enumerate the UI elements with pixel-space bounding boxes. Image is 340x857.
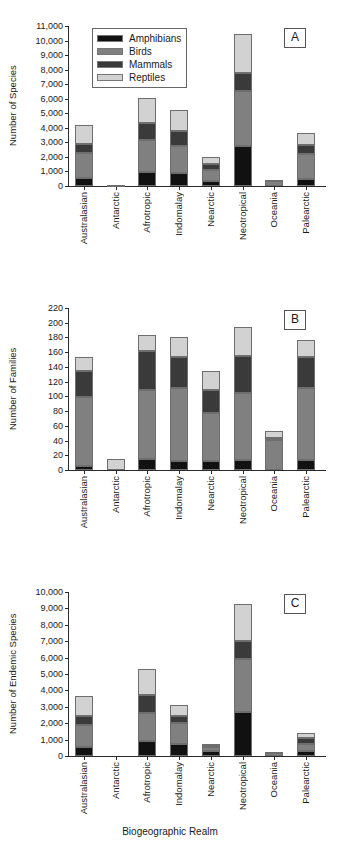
x-tick-label-afrotropic: Afrotropic [141,192,152,233]
bar-segment-mammals [297,357,315,389]
y-tick-label: 1,000 [40,167,63,176]
x-tick-label-indomalay: Indomalay [173,762,184,806]
x-tick-mark [116,471,117,474]
bar-segment-reptiles [265,431,283,438]
x-tick-label-australasian: Australasian [78,762,89,814]
bar-segment-amphibians [297,460,315,470]
chart-panel-c: Number of Endemic Species01,0002,0003,00… [0,576,340,857]
legend-label-reptiles: Reptiles [129,73,165,83]
bar-segment-reptiles [234,327,252,356]
bar-segment-birds [138,713,156,741]
bar-segment-reptiles [265,180,283,182]
chart-panel-b: Number of Families0204060801001201401601… [0,288,340,576]
x-tick-label-australasian: Australasian [78,476,89,528]
bar-segment-mammals [170,357,188,389]
bar-segment-amphibians [234,712,252,756]
bar-palearctic [297,308,315,470]
bar-antarctic [107,592,125,756]
bar-segment-amphibians [138,459,156,470]
x-tick-mark [243,757,244,760]
bar-nearctic [202,308,220,470]
y-tick-label: 20 [53,451,63,460]
bar-segment-birds [265,440,283,470]
bar-indomalay [170,308,188,470]
bar-segment-reptiles [234,604,252,641]
plot-area-a: Number of Species01,0002,0003,0004,0005,… [0,0,340,288]
bar-segment-reptiles [75,125,93,144]
bar-segment-mammals [202,164,220,171]
figure-biogeographic-realm-diversity: Number of Species01,0002,0003,0004,0005,… [0,0,340,857]
x-tick-mark [211,757,212,760]
x-tick-label-neotropical: Neotropical [237,476,248,524]
bar-segment-mammals [265,438,283,440]
y-tick-label: 3,000 [40,702,63,711]
bar-segment-reptiles [170,705,188,717]
bar-segment-amphibians [138,172,156,186]
panel-label-a: A [284,28,306,48]
y-axis-line [68,308,69,471]
x-tick-mark [147,471,148,474]
bar-segment-mammals [234,641,252,659]
x-tick-mark [211,187,212,190]
bar-segment-reptiles [297,733,315,738]
x-tick-label-antarctic: Antarctic [110,762,121,799]
bar-segment-birds [234,659,252,712]
y-axis-line [68,592,69,757]
bar-segment-reptiles [138,98,156,123]
x-tick-mark [147,187,148,190]
x-tick-label-neotropical: Neotropical [237,192,248,240]
bar-segment-reptiles [107,459,125,470]
bar-indomalay [170,592,188,756]
y-tick-label: 1,000 [40,735,63,744]
bar-neotropical [234,592,252,756]
legend-swatch-mammals [97,61,123,68]
bar-segment-reptiles [170,337,188,357]
y-tick-label: 60 [53,421,63,430]
bar-neotropical [234,26,252,186]
x-tick-label-palearctic: Palearctic [300,476,311,518]
y-axis-line [68,26,69,187]
x-tick-label-oceania: Oceania [268,762,279,797]
x-tick-mark [179,757,180,760]
bar-oceania [265,26,283,186]
x-tick-label-oceania: Oceania [268,476,279,511]
y-tick-label: 0 [58,466,63,475]
bar-segment-amphibians [202,751,220,756]
y-tick-label: 0 [58,752,63,761]
bar-segment-mammals [75,716,93,725]
y-tick-label: 3,000 [40,138,63,147]
x-tick-mark [179,187,180,190]
x-tick-mark [179,471,180,474]
bar-segment-amphibians [170,744,188,756]
bar-segment-mammals [202,390,220,412]
legend-item-birds: Birds [97,45,181,58]
bar-segment-birds [297,388,315,459]
y-tick-label: 5,000 [40,670,63,679]
bar-segment-birds [297,744,315,751]
bar-neotropical [234,308,252,470]
x-tick-label-palearctic: Palearctic [300,192,311,234]
bar-segment-amphibians [170,173,188,186]
bar-afrotropic [138,592,156,756]
x-tick-mark [211,471,212,474]
bar-segment-mammals [297,145,315,154]
y-tick-label: 8,000 [40,65,63,74]
y-tick-label: 80 [53,407,63,416]
bar-segment-birds [202,747,220,751]
x-tick-mark [243,187,244,190]
bar-segment-birds [234,393,252,461]
y-tick-label: 2,000 [40,152,63,161]
y-tick-label: 220 [48,304,63,313]
bar-afrotropic [138,308,156,470]
plot-area-c: Number of Endemic Species01,0002,0003,00… [0,576,340,857]
y-axis-ticks-a: 01,0002,0003,0004,0005,0006,0007,0008,00… [0,0,63,288]
bar-antarctic [107,308,125,470]
x-tick-mark [274,187,275,190]
x-tick-mark [84,757,85,760]
bar-segment-reptiles [75,696,93,716]
bar-australasian [75,308,93,470]
x-tick-label-indomalay: Indomalay [173,476,184,520]
y-axis-ticks-b: 020406080100120140160180200220 [0,288,63,576]
panel-label-b: B [284,310,306,330]
y-tick-label: 5,000 [40,109,63,118]
